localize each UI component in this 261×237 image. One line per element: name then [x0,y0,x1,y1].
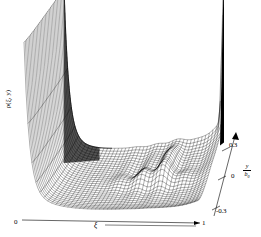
x-axis-label: ξ [94,221,97,230]
x-axis-tick-1: 1 [202,219,205,227]
y-axis-label: y b0 [243,163,251,179]
x-axis-tick-0: 0 [14,218,17,226]
z-axis-label: ρ(ξ, y) [4,82,12,116]
y-axis-label-denominator: b0 [243,171,251,179]
surface-plot-figure [0,0,261,237]
y-axis-tick-zero: 0 [231,172,234,180]
y-axis-tick-negative: -0.3 [216,207,226,215]
y-axis-tick-positive: 0.3 [229,141,237,149]
y-axis-label-numerator: y [243,163,251,169]
